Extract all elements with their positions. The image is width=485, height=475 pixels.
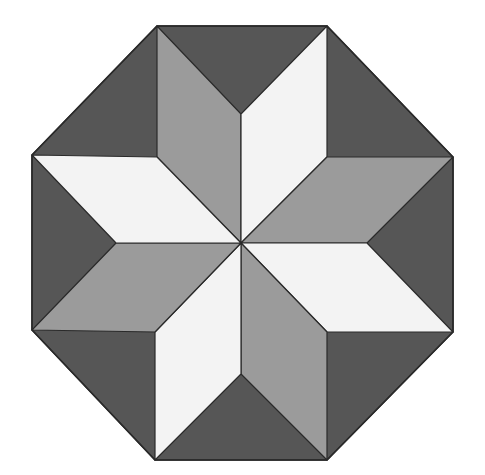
star-diagram: [0, 0, 485, 475]
star-octagon-figure: [0, 0, 485, 475]
